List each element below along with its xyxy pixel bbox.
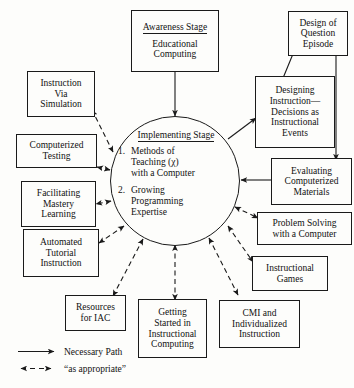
item-1-number: 1. [118, 146, 131, 179]
item-2-line-3: Expertise [131, 207, 183, 218]
design-question-line-1: Design of [299, 18, 336, 29]
node-problem-solving[interactable]: Problem Solving with a Computer [257, 212, 352, 245]
simulation-line-2: Via [54, 89, 67, 100]
automated-line-2: Tutorial [46, 248, 76, 259]
design-question-line-3: Episode [303, 39, 334, 50]
resources-line-2: for IAC [81, 313, 111, 324]
item-1-line-3: with a Computer [131, 168, 195, 179]
edge-center-problem-solving [235, 207, 258, 218]
item-2-body: Growing Programming Expertise [131, 185, 183, 218]
edge-center-games [228, 226, 253, 262]
edge-center-facilitating [96, 201, 111, 204]
awareness-line-1: Educational [152, 39, 197, 50]
item-2-line-1: Growing [131, 185, 183, 196]
node-getting-started[interactable]: Getting Started in Instructional Computi… [138, 299, 207, 358]
designing-line-3: Decisions as [271, 107, 319, 118]
awareness-line-2: Computing [154, 49, 197, 60]
legend-row-necessary-path: Necessary Path [18, 346, 126, 357]
designing-line-1: Designing [275, 85, 314, 96]
simulation-line-1: Instruction [40, 78, 81, 89]
edge-center-resources [113, 239, 143, 296]
legend-row-as-appropriate: “as appropriate” [18, 363, 126, 374]
designing-line-5: Events [282, 128, 308, 139]
cmi-line-3: Instruction [239, 329, 280, 340]
node-design-of-question-episode[interactable]: Design of Question Episode [288, 11, 348, 56]
as-appropriate-label: “as appropriate” [64, 364, 126, 374]
necessary-path-icon [18, 346, 64, 357]
resources-line-1: Resources [76, 302, 115, 313]
implementing-stage-item-2: 2. Growing Programming Expertise [118, 185, 234, 218]
node-instructional-games[interactable]: Instructional Games [252, 256, 328, 291]
automated-line-3: Instruction [40, 258, 81, 269]
evaluating-line-1: Evaluating [291, 166, 332, 177]
as-appropriate-icon [18, 363, 64, 374]
implementing-stage-content: Implementing Stage 1. Methods of Teachin… [118, 130, 234, 218]
designing-line-2: Instruction— [270, 96, 321, 107]
getting-started-line-1: Getting [158, 307, 187, 318]
node-designing-instruction[interactable]: Designing Instruction— Decisions as Inst… [255, 76, 335, 148]
node-computerized-testing[interactable]: Computerized Testing [16, 134, 97, 168]
cmi-line-2: Individualized [232, 319, 287, 330]
item-2-line-2: Programming [131, 196, 183, 207]
edge-center-automated [99, 226, 124, 243]
facilitating-line-1: Facilitating [37, 188, 80, 199]
node-resources-for-iac[interactable]: Resources for IAC [65, 295, 126, 331]
node-awareness-stage[interactable]: Awareness Stage Educational Computing [131, 10, 219, 72]
legend: Necessary Path “as appropriate” [18, 346, 126, 380]
testing-line-1: Computerized [30, 140, 84, 151]
problem-solving-line-2: with a Computer [273, 229, 337, 240]
item-1-line-2: Teaching (χ) [131, 157, 195, 168]
node-facilitating-mastery-learning[interactable]: Facilitating Mastery Learning [21, 181, 96, 227]
getting-started-line-2: Started in [154, 318, 191, 329]
item-2-number: 2. [118, 185, 131, 218]
item-1-line-1: Methods of [131, 146, 195, 157]
node-cmi-individualized-instruction[interactable]: CMI and Individualized Instruction [219, 300, 300, 348]
awareness-stage-heading: Awareness Stage [143, 22, 207, 34]
problem-solving-line-1: Problem Solving [272, 218, 336, 229]
facilitating-line-2: Mastery [43, 199, 74, 210]
design-question-line-2: Question [301, 28, 335, 39]
evaluating-line-3: Materials [294, 187, 330, 198]
games-line-1: Instructional [266, 263, 314, 274]
node-evaluating-computerized-materials[interactable]: Evaluating Computerized Materials [271, 158, 352, 205]
simulation-line-3: Simulation [40, 99, 82, 110]
node-instruction-via-simulation[interactable]: Instruction Via Simulation [27, 71, 95, 117]
node-automated-tutorial-instruction[interactable]: Automated Tutorial Instruction [23, 229, 99, 277]
designing-line-4: Instructional [271, 117, 319, 128]
testing-line-2: Testing [43, 151, 71, 162]
getting-started-line-4: Computing [151, 339, 194, 350]
edge-center-testing [97, 167, 110, 170]
implementing-stage-heading: Implementing Stage [138, 130, 215, 142]
cmi-line-1: CMI and [242, 308, 276, 319]
facilitating-line-3: Learning [41, 209, 75, 220]
edge-center-cmi [209, 238, 238, 295]
item-1-body: Methods of Teaching (χ) with a Computer [131, 146, 195, 179]
necessary-path-label: Necessary Path [64, 347, 122, 357]
games-line-2: Games [277, 274, 303, 285]
evaluating-line-2: Computerized [285, 176, 339, 187]
getting-started-line-3: Instructional [148, 329, 196, 340]
automated-line-1: Automated [40, 237, 82, 248]
diagram-canvas: Implementing Stage 1. Methods of Teachin… [0, 0, 354, 388]
implementing-stage-item-1: 1. Methods of Teaching (χ) with a Comput… [118, 146, 234, 179]
